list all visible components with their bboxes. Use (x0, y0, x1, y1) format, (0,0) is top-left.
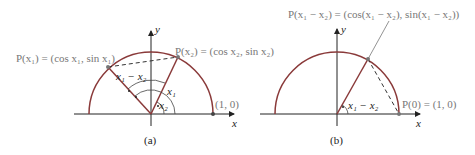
panel-a: P(x₁) = (cos x₁, sin x₁) P(x₂) = (cos x₂… (16, 23, 274, 147)
label-1-0: (1, 0) (215, 98, 239, 111)
caption-b: (b) (330, 134, 343, 147)
point-p-x1-x2 (366, 57, 370, 61)
label-p0: P(0) = (1, 0) (402, 98, 457, 111)
caption-a: (a) (144, 134, 157, 147)
label-p-x1: P(x₁) = (cos x₁, sin x₁) (16, 52, 115, 65)
label-angle-diff-a: x₁ − x₂ (115, 70, 147, 82)
label-angle-x2: x₂ (158, 99, 168, 111)
leader-line (368, 21, 389, 59)
panel-b: P(x₁ − x₂) = (cos(x₁ − x₂), sin(x₁ − x₂)… (260, 8, 460, 147)
label-x-axis-a: x (231, 117, 237, 129)
unit-circle-diagram: P(x₁) = (cos x₁, sin x₁) P(x₂) = (cos x₂… (0, 0, 475, 155)
point-1-0-a (211, 112, 215, 116)
label-angle-x1: x₁ (166, 85, 176, 97)
label-p-x2: P(x₂) = (cos x₂, sin x₂) (175, 45, 274, 58)
label-y-axis-b: y (340, 23, 346, 35)
label-p-x1-x2: P(x₁ − x₂) = (cos(x₁ − x₂), sin(x₁ − x₂)… (288, 8, 460, 21)
label-angle-diff-b: x₁ − x₂ (347, 99, 379, 111)
label-y-axis-a: y (154, 23, 160, 35)
point-p-x1 (106, 65, 110, 69)
chord-dashed-a (108, 57, 178, 67)
label-x-axis-b: x (415, 117, 421, 129)
point-p0 (397, 112, 401, 116)
